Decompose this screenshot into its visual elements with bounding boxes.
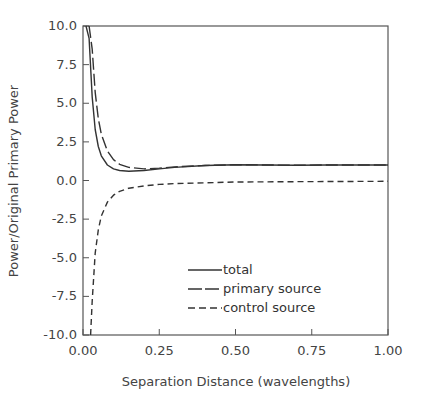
x-tick-label: 0.50 — [221, 343, 250, 358]
x-tick-label: 0.25 — [145, 343, 174, 358]
series-total — [86, 26, 388, 171]
y-tick-label: -2.5 — [52, 211, 77, 226]
y-tick-label: -5.0 — [52, 250, 77, 265]
legend-label: control source — [223, 300, 315, 315]
series-primary-source — [89, 26, 388, 169]
x-axis-title: Separation Distance (wavelengths) — [122, 374, 350, 389]
legend: totalprimary sourcecontrol source — [188, 262, 321, 315]
x-axis: 0.000.250.500.751.00 — [69, 329, 403, 358]
y-tick-label: 0.0 — [56, 173, 77, 188]
x-tick-label: 0.00 — [69, 343, 98, 358]
legend-label: total — [223, 262, 253, 277]
x-tick-label: 1.00 — [374, 343, 403, 358]
y-tick-label: 10.0 — [48, 18, 77, 33]
y-tick-label: 7.5 — [56, 57, 77, 72]
y-axis-title: Power/Original Primary Power — [6, 84, 21, 277]
y-tick-label: 2.5 — [56, 134, 77, 149]
x-tick-label: 0.75 — [297, 343, 326, 358]
legend-label: primary source — [223, 281, 321, 296]
y-tick-label: -10.0 — [43, 327, 77, 342]
y-axis: 10.07.55.02.50.0-2.5-5.0-7.5-10.0 — [43, 18, 89, 342]
chart: 10.07.55.02.50.0-2.5-5.0-7.5-10.0 0.000.… — [0, 0, 421, 407]
y-tick-label: -7.5 — [52, 288, 77, 303]
y-tick-label: 5.0 — [56, 95, 77, 110]
